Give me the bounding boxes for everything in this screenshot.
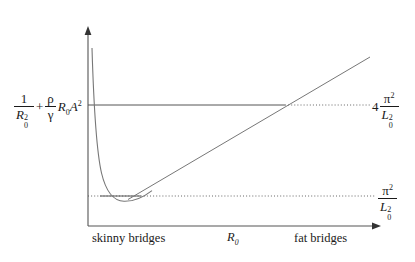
formula-numerator-one: 1 <box>14 92 34 107</box>
left-axis-formula: 1 R20 + ρ γ R0A2 <box>14 92 82 121</box>
plot-svg <box>0 0 415 262</box>
diagonal-line <box>128 57 370 200</box>
formula-numerator-rho: ρ <box>45 92 56 107</box>
energy-curve <box>92 48 152 201</box>
lower-level-label: π2 L20 <box>378 184 397 213</box>
upper-label-numerator: π2 <box>380 92 399 107</box>
formula-fraction-one-over-r0sq: 1 R20 <box>14 92 34 121</box>
upper-label-denominator: L20 <box>380 107 399 121</box>
lower-label-fraction: π2 L20 <box>378 184 397 213</box>
formula-denominator-r0sq: R20 <box>14 107 34 121</box>
lower-label-denominator: L20 <box>378 199 397 213</box>
lower-label-numerator: π2 <box>378 184 397 199</box>
formula-fraction-rho-over-gamma: ρ γ <box>45 92 56 121</box>
upper-label-coefficient: 4 <box>372 100 380 113</box>
upper-label-fraction: π2 L20 <box>380 92 399 121</box>
x-axis-label-r0: R0 <box>227 230 239 245</box>
formula-tail-r0-a-squared: R0A2 <box>56 100 82 113</box>
figure-container: 1 R20 + ρ γ R0A2 4 π2 L20 π2 L20 skinny … <box>0 0 415 262</box>
arrow-up-icon <box>85 26 92 35</box>
upper-level-label: 4 π2 L20 <box>372 92 399 121</box>
x-axis <box>88 223 381 230</box>
x-axis-label-skinny-bridges: skinny bridges <box>92 231 165 246</box>
formula-plus-operator: + <box>34 100 45 113</box>
formula-denominator-gamma: γ <box>45 107 56 121</box>
arrow-right-icon <box>372 223 381 230</box>
x-axis-label-fat-bridges: fat bridges <box>294 231 347 246</box>
